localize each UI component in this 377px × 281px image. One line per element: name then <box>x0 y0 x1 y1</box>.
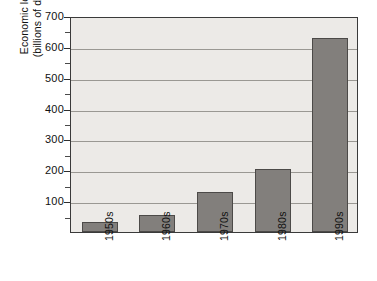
x-axis-tick-label: 1950s <box>104 193 115 241</box>
y-axis-tick-label: 600 <box>30 42 64 53</box>
y-axis-tick-label: 500 <box>30 73 64 84</box>
y-axis-tick-label: 100 <box>30 196 64 207</box>
y-axis-tick-label: 300 <box>30 134 64 145</box>
x-axis-tick-labels: 1950s1960s1970s1980s1990s <box>70 233 358 281</box>
x-axis-tick-label: 1990s <box>334 193 345 241</box>
x-axis-tick-label: 1960s <box>161 193 172 241</box>
y-axis-tick-label: 400 <box>30 104 64 115</box>
y-axis-tick-label: 700 <box>30 11 64 22</box>
bar-chart-figure: Economic losses (billions of dollars) 10… <box>0 0 377 281</box>
y-axis-tick-labels: 100200300400500600700 <box>28 0 64 281</box>
x-axis-tick-label: 1970s <box>219 193 230 241</box>
x-axis-tick-label: 1980s <box>277 193 288 241</box>
y-axis-tick-label: 200 <box>30 165 64 176</box>
